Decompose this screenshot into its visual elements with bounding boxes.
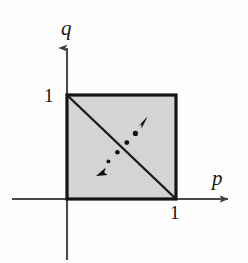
arrow-dot: [133, 131, 138, 136]
x-tick-label-1: 1: [170, 203, 180, 222]
arrow-dot: [115, 150, 120, 155]
arrow-dot: [106, 159, 110, 163]
figure-root: q p 1 1: [0, 0, 248, 263]
y-tick-label-1: 1: [44, 86, 54, 105]
diagram-canvas: [0, 0, 248, 263]
axis-label-q: q: [61, 18, 72, 39]
axis-label-p: p: [212, 168, 223, 189]
arrow-dot: [124, 140, 129, 145]
